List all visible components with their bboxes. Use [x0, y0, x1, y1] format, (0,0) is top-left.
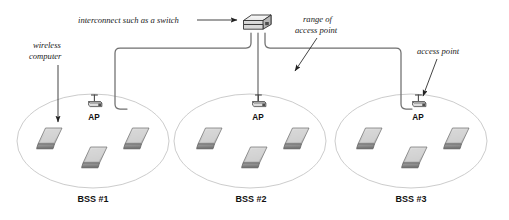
ap-bss2-label: AP [252, 113, 264, 122]
bss1-label: BSS #1 [77, 194, 108, 204]
ap-bss1-label: AP [88, 113, 100, 122]
coverage-ellipses [17, 94, 487, 188]
wireless-computer-label-line2: computer [29, 51, 62, 61]
ap-bss2[interactable] [253, 95, 266, 107]
ap-bss1[interactable] [89, 95, 102, 107]
access-point-label: access point [417, 46, 460, 56]
switch-device[interactable] [244, 15, 272, 29]
laptop-bss3-left[interactable] [356, 128, 382, 149]
bss3-range-ellipse [335, 94, 487, 188]
wireless-computer-label-line1: wireless [33, 40, 62, 50]
interconnect-label: interconnect such as a switch [78, 15, 179, 25]
laptop-bss2-right[interactable] [283, 128, 309, 149]
range-leader-line [295, 38, 317, 71]
bss2-label: BSS #2 [235, 194, 266, 204]
laptop-bss1-right[interactable] [123, 128, 149, 149]
ap-bss3-label: AP [412, 113, 424, 122]
range-label-line2: access point [295, 25, 338, 35]
cable-bundle [115, 33, 412, 109]
range-label-line1: range of [303, 14, 333, 24]
laptop-bss3-center[interactable] [401, 147, 427, 168]
ap-bss3[interactable] [413, 95, 426, 107]
cable-switch-to-ap3 [265, 33, 412, 109]
laptop-bss2-left[interactable] [196, 128, 222, 149]
diagram-canvas: AP AP AP BSS #1 BSS #2 BSS #3 interconne… [0, 0, 509, 220]
laptop-bss1-left[interactable] [36, 128, 62, 149]
laptop-bss1-center[interactable] [81, 147, 107, 168]
laptop-bss3-right[interactable] [443, 128, 469, 149]
access-point-leader-line [423, 59, 437, 96]
bss3-label: BSS #3 [395, 194, 426, 204]
laptop-bss2-center[interactable] [241, 147, 267, 168]
cable-switch-to-ap1 [115, 33, 251, 109]
